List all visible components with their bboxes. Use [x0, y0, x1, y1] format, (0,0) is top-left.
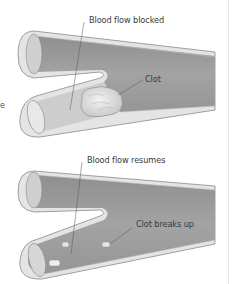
label-blood-flow-blocked: Blood flow blocked — [89, 16, 164, 24]
panel-blood-flow-blocked: Blood flow blocked Clot — [0, 0, 233, 142]
clot-fragment — [49, 260, 60, 266]
clot-shape — [81, 87, 122, 117]
clot-fragment — [102, 242, 110, 247]
label-clot: Clot — [145, 75, 161, 83]
label-blood-flow-resumes: Blood flow resumes — [87, 156, 165, 164]
panel-blood-flow-resumes: Blood flow resumes Clot breaks up — [0, 142, 233, 284]
clot-fragment — [62, 242, 69, 247]
label-clot-breaks-up: Clot breaks up — [136, 220, 194, 228]
